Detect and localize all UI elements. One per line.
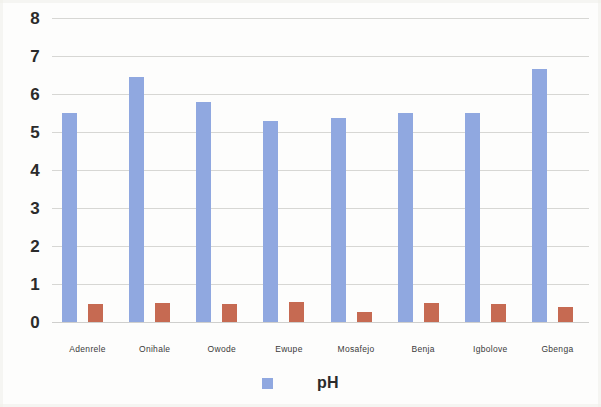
y-tick-label: 7 [30,48,40,65]
bar-secondary [289,302,304,322]
bar-secondary [155,303,170,322]
bar-secondary [88,304,103,322]
x-tick-label: Mosafejo [338,344,375,354]
bar-group [253,18,320,322]
y-tick-label: 0 [30,314,40,331]
bar-ph [331,118,346,322]
y-tick-label: 6 [30,86,40,103]
y-tick-label: 2 [30,238,40,255]
y-tick-label: 4 [30,162,40,179]
bar-ph [465,113,480,322]
legend-swatch-icon [262,378,273,389]
x-tick-label: Benja [412,344,435,354]
bar-group [186,18,253,322]
x-tick-label: Ewupe [275,344,303,354]
x-tick-label: Onihale [139,344,170,354]
page-edge-top [0,0,601,3]
bar-ph [62,113,77,322]
y-tick-label: 1 [30,276,40,293]
bar-secondary [222,304,237,322]
y-tick-label: 8 [30,10,40,27]
bar-ph [398,113,413,322]
bar-secondary [558,307,573,322]
bar-ph [129,77,144,322]
bar-group [388,18,455,322]
bars-layer [52,18,589,322]
bar-group [321,18,388,322]
x-tick-label: Owode [208,344,236,354]
x-axis-labels: AdenreleOnihaleOwodeEwupeMosafejoBenjaIg… [52,344,589,362]
y-tick-label: 3 [30,200,40,217]
bar-secondary [357,312,372,322]
bar-group [455,18,522,322]
bar-secondary [491,304,506,322]
legend-label: pH [317,374,339,392]
bar-group [119,18,186,322]
gridline-0 [52,322,589,323]
y-axis: 012345678 [0,0,52,407]
plot-area [52,18,589,322]
x-tick-label: Igbolove [473,344,508,354]
chart-legend: pH [0,374,601,392]
x-tick-label: Gbenga [541,344,573,354]
bar-ph [532,69,547,322]
bar-ph [196,102,211,322]
bar-group [522,18,589,322]
bar-chart: 012345678 AdenreleOnihaleOwodeEwupeMosaf… [0,0,601,407]
x-tick-label: Adenrele [69,344,105,354]
y-tick-label: 5 [30,124,40,141]
bar-group [52,18,119,322]
bar-ph [263,121,278,322]
bar-secondary [424,303,439,322]
legend-item[interactable]: pH [262,374,339,392]
